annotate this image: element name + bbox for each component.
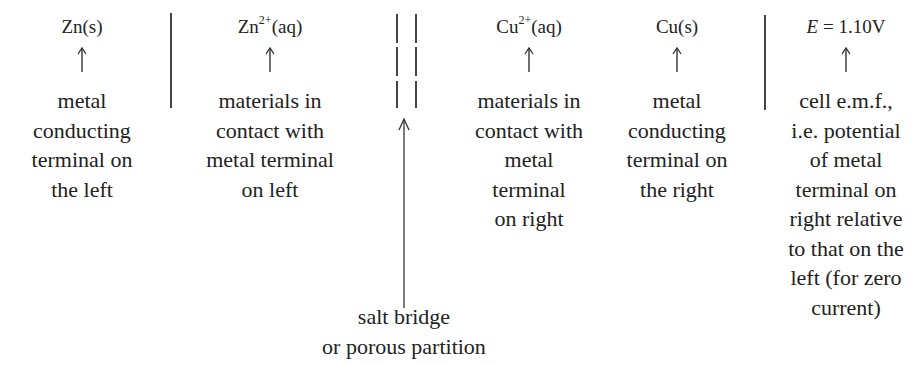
salt-bridge-label-line: salt bridge	[254, 302, 554, 332]
description-line: metal	[592, 86, 762, 116]
description-line: current)	[761, 293, 918, 323]
description-line: terminal on	[0, 145, 167, 175]
description: metal conducting terminal on the left	[0, 86, 167, 204]
species-charge: 2+	[259, 13, 272, 27]
species-base: Zn	[238, 16, 259, 37]
description-line: metal	[444, 145, 614, 175]
description-line: on right	[444, 204, 614, 234]
salt-bridge-dash	[396, 47, 398, 76]
salt-bridge-arrow-icon	[398, 118, 412, 312]
species-label: Zn2+(aq)	[185, 13, 355, 41]
salt-bridge-label-line: or porous partition	[254, 332, 554, 362]
up-arrow-icon	[676, 48, 678, 72]
description-line: terminal on	[592, 145, 762, 175]
description: metal conducting terminal on the right	[592, 86, 762, 204]
species-label: Cu(s)	[592, 13, 762, 41]
description-line: metal	[0, 86, 167, 116]
up-arrow-icon	[81, 48, 83, 72]
description-line: metal terminal	[185, 145, 355, 175]
species-base: Zn	[61, 16, 82, 37]
species-state: (s)	[83, 16, 103, 37]
description-line: terminal	[444, 175, 614, 205]
species-base: Cu	[496, 16, 518, 37]
description-line: right relative	[761, 204, 918, 234]
species-state: (aq)	[531, 16, 562, 37]
phase-boundary-left	[170, 13, 172, 108]
salt-bridge-dash	[396, 14, 398, 43]
species-label: Cu2+(aq)	[444, 13, 614, 41]
up-arrow-icon	[528, 48, 530, 72]
description: materials in contact with metal terminal…	[444, 86, 614, 234]
description-line: the left	[0, 175, 167, 205]
description-line: cell e.m.f.,	[761, 86, 918, 116]
description: cell e.m.f., i.e. potential of metal ter…	[761, 86, 918, 322]
description-line: the right	[592, 175, 762, 205]
emf-value: = 1.10V	[818, 16, 885, 37]
salt-bridge-dash	[396, 81, 398, 108]
description-line: terminal on	[761, 175, 918, 205]
salt-bridge-dash	[415, 47, 417, 76]
description-line: left (for zero	[761, 263, 918, 293]
description-line: i.e. potential	[761, 116, 918, 146]
description-line: contact with	[444, 116, 614, 146]
description-line: of metal	[761, 145, 918, 175]
description-line: contact with	[185, 116, 355, 146]
description-line: materials in	[444, 86, 614, 116]
species-charge: 2+	[518, 13, 531, 27]
species-state: (aq)	[272, 16, 303, 37]
salt-bridge-dash	[415, 81, 417, 108]
description-line: to that on the	[761, 234, 918, 264]
emf-symbol: E	[807, 16, 819, 37]
species-base: Cu	[656, 16, 678, 37]
description-line: conducting	[0, 116, 167, 146]
up-arrow-icon	[269, 48, 271, 72]
up-arrow-icon	[845, 48, 847, 72]
description-line: conducting	[592, 116, 762, 146]
description: materials in contact with metal terminal…	[185, 86, 355, 204]
description-line: on left	[185, 175, 355, 205]
description-line: materials in	[185, 86, 355, 116]
salt-bridge-label: salt bridge or porous partition	[254, 302, 554, 361]
species-label: Zn(s)	[0, 13, 167, 41]
emf-label: E = 1.10V	[761, 13, 918, 41]
salt-bridge-dash	[415, 14, 417, 43]
species-state: (s)	[678, 16, 698, 37]
